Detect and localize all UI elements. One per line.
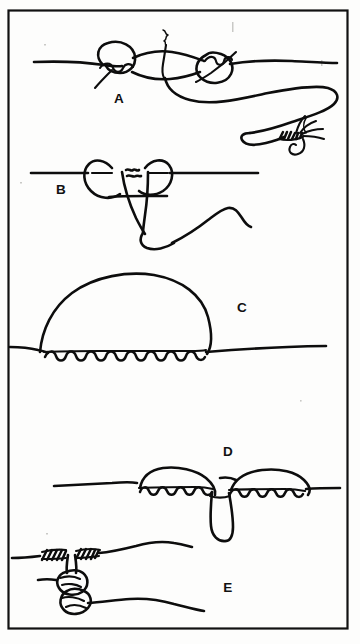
- panel-b-center-crossing: [126, 169, 139, 170]
- knot-diagram-svg: A B: [0, 0, 360, 644]
- panel-d-label: D: [223, 444, 233, 459]
- panel-b-lower-cross-line: [109, 196, 167, 197]
- panel-c-coil-underline: [44, 350, 206, 352]
- panel-e-label: E: [223, 580, 233, 595]
- panel-c-label: C: [237, 300, 247, 315]
- panel-b-center-crossing-2: [127, 175, 141, 176]
- panel-a-label: A: [114, 91, 124, 106]
- panel-d-standing-line-right: [306, 488, 340, 489]
- panel-e-left-coil-bottom: [42, 558, 66, 559]
- panel-b-label: B: [56, 182, 66, 197]
- figure-page: A B: [0, 0, 360, 644]
- panel-e-tippet-left: [38, 579, 56, 580]
